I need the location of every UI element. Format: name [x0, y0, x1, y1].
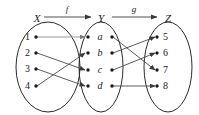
- diagram-canvas: X Y Z f g 1 2 3 4 a b c d 5 6 7 8: [0, 0, 199, 115]
- element-label-z-7: 7: [163, 64, 168, 75]
- node-dot-z-6: [155, 51, 158, 54]
- element-label-x-3: 3: [25, 63, 30, 74]
- node-dot-z-5: [155, 35, 158, 38]
- element-label-y-a: a: [98, 31, 103, 42]
- node-dot-z-7: [155, 68, 158, 71]
- element-label-z-5: 5: [163, 31, 168, 42]
- function-label-f: f: [66, 4, 70, 14]
- node-dot-x-2: [34, 51, 37, 54]
- set-label-x: X: [33, 12, 42, 24]
- node-dot-y-b-in: [86, 51, 89, 54]
- function-label-g: g: [132, 4, 137, 14]
- element-label-x-2: 2: [25, 47, 30, 58]
- mapping-diagram: X Y Z f g 1 2 3 4 a b c d 5 6 7 8: [0, 0, 199, 115]
- node-dot-x-4: [34, 84, 37, 87]
- node-dot-y-d-out: [110, 84, 113, 87]
- node-dot-z-8: [155, 84, 158, 87]
- element-label-z-6: 6: [163, 47, 168, 58]
- edge-f-4-b: [37, 53, 85, 86]
- node-dot-x-3: [34, 67, 37, 70]
- edge-g-a-7: [113, 37, 155, 70]
- set-label-z: Z: [165, 12, 172, 24]
- edge-f-3-d: [37, 69, 85, 86]
- element-label-y-b: b: [98, 47, 103, 58]
- edge-g-c-6: [113, 53, 155, 70]
- element-label-z-8: 8: [163, 80, 168, 91]
- node-dot-y-c-out: [110, 68, 113, 71]
- edge-f-2-c: [37, 53, 85, 70]
- node-dot-y-b-out: [110, 51, 113, 54]
- node-dot-y-c-in: [86, 68, 89, 71]
- element-label-y-c: c: [98, 64, 103, 75]
- edge-g-b-5: [113, 37, 155, 53]
- node-dot-y-d-in: [86, 84, 89, 87]
- node-dot-y-a-in: [86, 35, 89, 38]
- element-label-x-1: 1: [25, 31, 30, 42]
- node-dot-y-a-out: [110, 35, 113, 38]
- element-label-y-d: d: [98, 80, 104, 91]
- node-dot-x-1: [34, 35, 37, 38]
- element-label-x-4: 4: [25, 80, 30, 91]
